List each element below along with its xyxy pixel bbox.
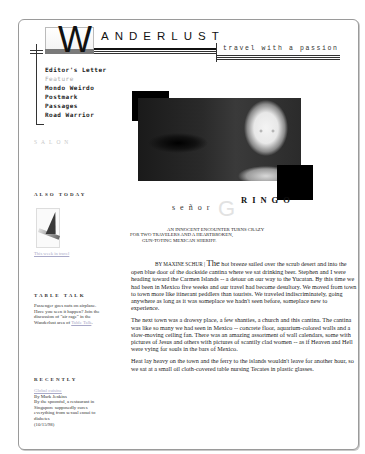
also-today-heading: ALSO TODAY (34, 192, 86, 197)
nav-bracket (36, 44, 37, 124)
nav-item-road-warrior[interactable]: Road Warrior (45, 110, 107, 119)
recently-heading: RECENTLY (34, 377, 77, 382)
article-byline: BY MAXINE SCHUR | (131, 261, 205, 267)
article-dropcap: The (207, 258, 220, 268)
salon-logo-link[interactable]: SALON (34, 139, 72, 145)
recent-article-summary: By the spoonful, a restaurant in Singapo… (34, 399, 95, 421)
feature-title-rest: RINGO (241, 195, 295, 205)
header-rule (94, 48, 216, 50)
hero-photo-eyes (258, 129, 276, 134)
header-rule (216, 55, 340, 56)
tagline: travel with a passion (223, 45, 339, 52)
recent-article-date: (10/15/98) (34, 422, 104, 428)
feature-title-initial: G (218, 196, 235, 222)
article-body: BY MAXINE SCHUR | The hot breeze sailed … (131, 260, 357, 377)
article-paragraph: Heat lay heavy on the town and the ferry… (131, 357, 357, 371)
header-rule (216, 59, 340, 60)
this-week-in-travel-link[interactable]: This week in travel (34, 251, 69, 256)
site-title[interactable]: ANDERLUST (101, 30, 225, 42)
article-paragraph: The next town was a drowsy place, a few … (131, 316, 357, 352)
table-talk-heading: TABLE TALK (34, 293, 86, 298)
recently-blurb: Global cuisine By Mark Jenkins By the sp… (34, 388, 104, 427)
nav-item-postmark[interactable]: Postmark (45, 92, 107, 101)
nav-item-editors-letter[interactable]: Editor's Letter (45, 65, 107, 74)
dek-line: GUN-TOTING MEXICAN SHERIFF. (130, 238, 310, 243)
feature-dek: AN INNOCENT ENCOUNTER TURNS CRAZY FOR TW… (130, 227, 310, 243)
header-rule (94, 51, 216, 52)
feature-title-prefix: señor (172, 203, 214, 212)
nav-bracket-foot (36, 124, 44, 125)
article-paragraph: BY MAXINE SCHUR | The hot breeze sailed … (131, 260, 357, 311)
nav-item-passages[interactable]: Passages (45, 101, 107, 110)
section-nav: Editor's Letter Feature Mondo Weirdo Pos… (45, 65, 107, 119)
logo-letter[interactable]: W (58, 22, 90, 58)
table-talk-blurb: Passenger goes nuts on airplane. Have yo… (34, 303, 104, 325)
nav-item-feature[interactable]: Feature (45, 74, 107, 83)
header-rule (94, 53, 216, 54)
header-rule (216, 57, 340, 58)
nav-item-mondo-weirdo[interactable]: Mondo Weirdo (45, 83, 107, 92)
table-talk-link[interactable]: Table Talk (71, 320, 91, 325)
